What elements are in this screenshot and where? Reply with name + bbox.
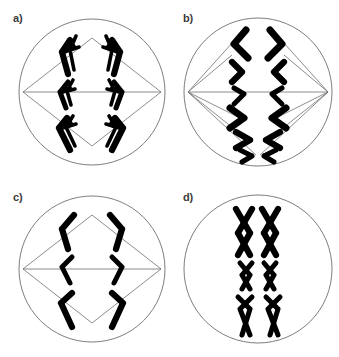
figure-root: a) xyxy=(0,0,339,357)
panel-c-diagram xyxy=(0,179,169,357)
panel-b-diagram xyxy=(170,0,339,178)
panel-b: b) xyxy=(170,0,339,178)
panel-d: d) xyxy=(170,179,339,357)
panel-a: a) xyxy=(0,0,169,178)
panel-a-diagram xyxy=(0,0,169,178)
cell-membrane xyxy=(184,195,332,343)
panel-d-diagram xyxy=(170,179,339,357)
panel-c: c) xyxy=(0,179,169,357)
